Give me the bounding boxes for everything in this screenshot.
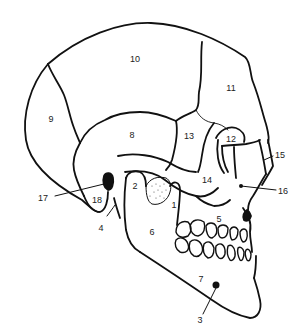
lambdoid-suture <box>48 64 80 143</box>
styloid-process <box>114 198 120 218</box>
ear-canal-fill <box>103 173 113 190</box>
nasal-bone-1 <box>259 140 266 174</box>
label-10: 10 <box>130 55 140 64</box>
label-11: 11 <box>226 84 235 93</box>
sphenoid-front <box>198 123 214 172</box>
mental-foramen-dot <box>213 282 220 289</box>
nasal-aperture-fill <box>243 210 251 221</box>
label-9: 9 <box>48 115 53 124</box>
skull-diagram <box>0 0 302 335</box>
zygomatic-body <box>196 196 230 206</box>
lower-teeth <box>175 238 251 261</box>
styloid-pointer-4 <box>107 205 115 216</box>
zygomatic-arch-upper <box>118 154 196 172</box>
label-1: 1 <box>171 201 176 210</box>
label-2: 2 <box>132 182 137 191</box>
label-3: 3 <box>197 316 202 325</box>
squamous-suture <box>80 112 176 143</box>
occipitomastoid-suture <box>73 143 84 196</box>
orbit-inner-1 <box>222 146 228 172</box>
maxilla-front <box>248 174 266 210</box>
label-18: 18 <box>92 196 102 205</box>
lacrimal-line <box>234 147 236 178</box>
occipital-outline <box>25 64 98 212</box>
label-6: 6 <box>149 228 154 237</box>
label-4: 4 <box>98 224 103 233</box>
cranium-outline <box>48 23 269 143</box>
label-16: 16 <box>278 187 288 196</box>
chin-front <box>254 256 256 278</box>
label-7: 7 <box>198 275 203 284</box>
label-12: 12 <box>226 135 236 144</box>
infraorbital-foramen-dot <box>239 184 243 188</box>
label-17: 17 <box>38 194 48 203</box>
upper-teeth <box>176 220 247 242</box>
coronoid-stipple <box>149 183 166 198</box>
mandible-body-lower <box>140 252 261 318</box>
label-13: 13 <box>184 132 194 141</box>
label-5: 5 <box>216 215 221 224</box>
label-14: 14 <box>202 176 212 185</box>
coronal-suture <box>176 42 202 121</box>
label-8: 8 <box>129 131 134 140</box>
label-15: 15 <box>275 151 285 160</box>
